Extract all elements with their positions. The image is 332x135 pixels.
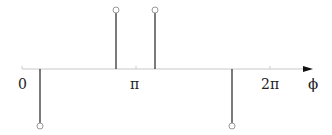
stem-diagram — [0, 0, 332, 135]
open-circle-marker-icon — [113, 7, 119, 13]
stem-4 — [229, 69, 235, 129]
axis-arrow-icon — [303, 66, 313, 72]
stem-3 — [152, 7, 158, 69]
stem-1 — [37, 69, 43, 129]
tick-label-zero: 0 — [18, 77, 27, 91]
tick-label-pi: π — [130, 77, 139, 91]
open-circle-marker-icon — [229, 123, 235, 129]
axis-label-phi: ϕ — [308, 77, 318, 92]
tick-label-two-pi: 2π — [261, 77, 279, 91]
open-circle-marker-icon — [152, 7, 158, 13]
stem-2 — [113, 7, 119, 69]
open-circle-marker-icon — [37, 123, 43, 129]
